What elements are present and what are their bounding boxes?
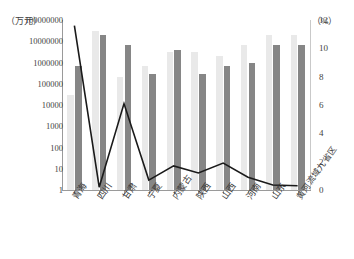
left-axis-tick-label: 100000 <box>38 80 64 89</box>
left-axis-tick-label: 10000 <box>42 101 63 110</box>
left-axis-tick-label: 1000000 <box>33 58 63 67</box>
right-axis-tick-label: 4 <box>319 129 324 138</box>
right-axis-tick-label: 6 <box>319 101 324 110</box>
left-axis-tick-label: 100000000 <box>25 16 63 25</box>
right-axis-line <box>310 20 311 191</box>
right-axis-tick-label: 12 <box>319 16 328 25</box>
right-axis-tick-label: 10 <box>319 44 328 53</box>
percentage-line <box>74 26 297 188</box>
line-series-layer <box>62 20 310 190</box>
chart-container: （万元） （%） 1000000001000000010000001000001… <box>0 0 354 259</box>
right-axis-tick-label: 0 <box>319 186 324 195</box>
right-axis-tick-label: 8 <box>319 72 324 81</box>
left-axis-tick-label: 1000 <box>46 122 63 131</box>
left-axis-tick-label: 10000000 <box>29 37 63 46</box>
